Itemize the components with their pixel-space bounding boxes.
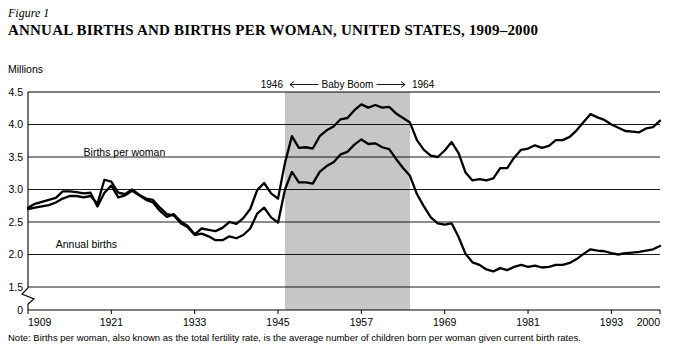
chart-svg: 01.52.02.53.03.54.04.5190919211933194519… <box>0 0 687 353</box>
figure-container: Figure 1 ANNUAL BIRTHS AND BIRTHS PER WO… <box>0 0 687 353</box>
y-tick-label: 0 <box>17 304 23 316</box>
x-tick-label: 1921 <box>100 316 124 328</box>
annotation-baby-boom-start: 1946 <box>261 79 284 90</box>
y-tick-label: 3.5 <box>8 151 23 163</box>
y-tick-label: 1.5 <box>8 281 23 293</box>
annotation-baby-boom-label: Baby Boom <box>322 79 374 90</box>
y-tick-label: 2.5 <box>8 216 23 228</box>
chart-plot-area: 01.52.02.53.03.54.04.5190919211933194519… <box>0 0 687 353</box>
y-tick-label: 4.0 <box>8 118 23 130</box>
series-label-annual-births: Annual births <box>56 238 117 250</box>
y-tick-label: 4.5 <box>8 86 23 98</box>
annotation-baby-boom-end: 1964 <box>412 79 435 90</box>
series-label-births-per-woman: Births per woman <box>84 146 166 158</box>
x-tick-label: 1957 <box>350 316 374 328</box>
x-tick-label: 2000 <box>637 316 661 328</box>
x-tick-label: 1909 <box>28 316 52 328</box>
y-tick-label: 2.0 <box>8 248 23 260</box>
x-tick-label: 1969 <box>433 316 457 328</box>
figure-note: Note: Births per woman, also known as th… <box>8 332 581 343</box>
x-tick-label: 1993 <box>600 316 624 328</box>
x-tick-label: 1933 <box>183 316 207 328</box>
y-axis-break-icon <box>22 288 34 304</box>
y-tick-label: 3.0 <box>8 183 23 195</box>
x-tick-label: 1981 <box>516 316 540 328</box>
x-tick-label: 1945 <box>266 316 290 328</box>
